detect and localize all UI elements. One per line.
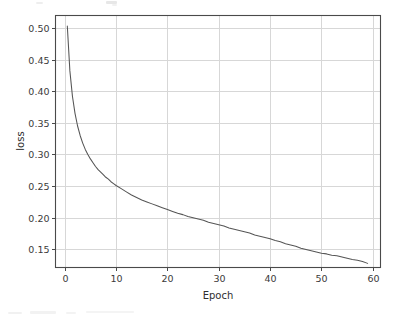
x-axis-title: Epoch [203,290,234,301]
x-tick-label: 60 [367,273,379,284]
x-gridlines [66,16,374,268]
x-tick-label: 30 [213,273,225,284]
y-tick-label: 0.25 [28,181,49,192]
y-tick-label: 0.30 [28,149,49,160]
y-tick-label: 0.45 [28,55,49,66]
loss-chart-plot: 0102030405060 0.150.200.250.300.350.400.… [0,0,398,317]
y-tick-label: 0.20 [28,213,49,224]
x-tick-label: 10 [110,273,122,284]
y-gridlines [56,29,381,250]
x-tick-labels: 0102030405060 [62,273,379,284]
y-tick-label: 0.15 [28,244,49,255]
loss-series-line [67,26,367,263]
y-axis-title: loss [15,131,26,150]
loss-curve-figure: 0102030405060 0.150.200.250.300.350.400.… [0,0,398,317]
y-tick-label: 0.50 [28,23,49,34]
x-tick-label: 40 [264,273,276,284]
plot-frame [56,16,381,268]
x-tick-label: 50 [315,273,327,284]
y-tick-labels: 0.150.200.250.300.350.400.450.50 [28,23,49,255]
y-tick-label: 0.35 [28,118,49,129]
y-tick-label: 0.40 [28,86,49,97]
x-tick-label: 0 [62,273,68,284]
x-tick-label: 20 [161,273,173,284]
